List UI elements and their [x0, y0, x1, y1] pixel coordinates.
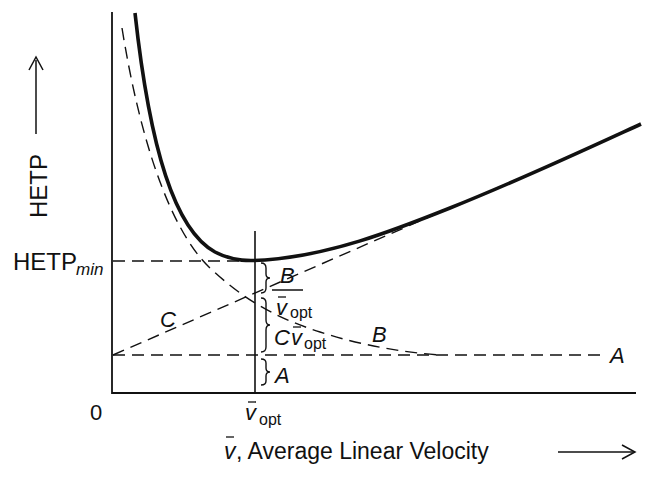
v-opt-tick-opt: opt: [259, 411, 282, 428]
label-b-numerator: B: [280, 263, 295, 288]
label-b-curve: B: [372, 322, 387, 347]
hetp-min-label: HETP: [13, 248, 77, 275]
label-v-denominator: v: [276, 295, 289, 320]
van-deemter-chart: B v opt C v opt A C B A HETP HETP min 0 …: [0, 0, 651, 478]
label-c-vopt-c: C: [274, 325, 290, 350]
label-c-vopt-opt: opt: [304, 335, 327, 352]
hetp-curve: [135, 13, 641, 261]
brace-c: [261, 298, 270, 352]
brace-a: [261, 359, 270, 385]
origin-label: 0: [90, 400, 102, 425]
v-opt-tick-v: v: [245, 400, 258, 425]
hetp-min-sub: min: [76, 260, 103, 279]
label-c-vopt-v: v: [291, 325, 304, 350]
label-a-brace: A: [273, 363, 290, 388]
label-a-line: A: [608, 343, 625, 368]
label-opt-denominator: opt: [290, 304, 313, 321]
x-axis-label: , Average Linear Velocity: [236, 438, 489, 464]
brace-b: [261, 263, 270, 293]
label-c-line: C: [160, 307, 176, 332]
y-axis-label: HETP: [25, 154, 52, 218]
